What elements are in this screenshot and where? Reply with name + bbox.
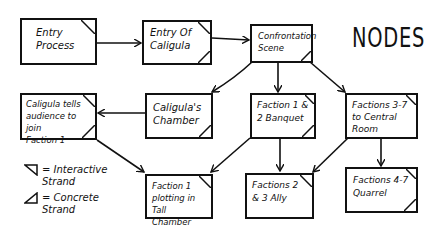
legend-item-concrete: = Concrete Strand <box>24 192 134 218</box>
node-label: Caligula tells audience to join Faction … <box>26 98 91 146</box>
concrete-strand-triangle-icon <box>24 192 38 207</box>
edge-faction-1-2-banquet-to-faction-1-plotting <box>211 138 250 172</box>
node-factions-4-7-quarrel[interactable]: Factions 4-7 Quarrel <box>345 167 418 213</box>
interactive-strand-triangle-icon <box>24 164 38 179</box>
node-confrontation-scene[interactable]: Confrontation Scene <box>250 24 313 63</box>
legend-item-interactive: = Interactive Strand <box>24 164 134 190</box>
node-entry-of-caligula[interactable]: Entry Of Caligula <box>142 20 212 65</box>
node-faction-1-2-banquet[interactable]: Faction 1 & 2 Banquet <box>250 93 316 139</box>
node-label: Faction 1 & 2 Banquet <box>257 99 310 125</box>
node-label: Factions 3-7 to Central Room <box>352 99 412 135</box>
edge-confrontation-to-caligulas-chamber <box>212 62 252 92</box>
edge-confrontation-to-factions-3-7 <box>310 62 345 92</box>
node-label: Entry Process <box>36 26 87 52</box>
diagram-title: NODES <box>352 22 425 53</box>
node-label: Factions 4-7 Quarrel <box>353 174 412 200</box>
node-caligulas-chamber[interactable]: Caligula's Chamber <box>145 93 213 139</box>
edge-entry-of-caligula-to-confrontation <box>212 38 249 40</box>
node-caligula-tells[interactable]: Caligula tells audience to join Faction … <box>20 93 97 140</box>
node-label: Entry Of Caligula <box>150 26 202 52</box>
node-entry-process[interactable]: Entry Process <box>20 18 97 65</box>
node-label: Caligula's Chamber <box>153 101 203 127</box>
node-factions-2-3-ally[interactable]: Factions 2 & 3 Ally <box>245 173 314 219</box>
node-factions-3-7-central[interactable]: Factions 3-7 to Central Room <box>345 93 418 139</box>
edge-factions-3-7-to-factions-2-3-ally <box>313 138 348 172</box>
node-faction-1-plotting[interactable]: Faction 1 plotting in Tall Chamber <box>145 174 213 219</box>
node-label: Confrontation Scene <box>258 30 307 54</box>
legend-label: = Concrete Strand <box>42 192 99 216</box>
legend-label: = Interactive Strand <box>42 164 107 188</box>
